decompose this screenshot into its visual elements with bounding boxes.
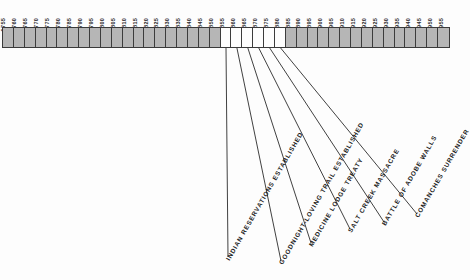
timeline-cell-1830	[166, 28, 177, 47]
timeline-cell-1795	[90, 28, 101, 47]
timeline-cell-1755	[3, 28, 14, 47]
timeline-cell-1800	[101, 28, 112, 47]
year-tick-1935: 1935	[396, 1, 406, 27]
year-tick-1945: 1945	[418, 1, 428, 27]
timeline-cell-1875	[264, 28, 275, 47]
timeline-cell-1890	[297, 28, 308, 47]
timeline-cell-1785	[68, 28, 79, 47]
timeline-cell-1930	[384, 28, 395, 47]
timeline-cell-1885	[286, 28, 297, 47]
year-tick-1955: 1955	[440, 1, 450, 27]
year-tick-1950: 1950	[429, 1, 439, 27]
timeline-cell-1920	[362, 28, 373, 47]
year-tick-1875: 1875	[265, 1, 275, 27]
year-tick-1940: 1940	[407, 1, 417, 27]
year-tick-1805: 1805	[112, 1, 122, 27]
timeline-cell-1820	[144, 28, 155, 47]
timeline-cell-1845	[199, 28, 210, 47]
timeline-cell-1810	[123, 28, 134, 47]
year-tick-1810: 1810	[123, 1, 133, 27]
timeline-cell-1860	[231, 28, 242, 47]
event-label-1875: BATTLE OF ADOBE WALLS	[381, 134, 438, 226]
leader-line-1855	[226, 48, 228, 257]
timeline-cell-1780	[57, 28, 68, 47]
timeline-cell-1900	[318, 28, 329, 47]
event-label-1880: COMANCHES SURRENDER	[414, 128, 470, 219]
timeline-cell-1770	[36, 28, 47, 47]
timeline-cell-1775	[47, 28, 58, 47]
timeline-cell-1840	[188, 28, 199, 47]
timeline-cell-1815	[134, 28, 145, 47]
leader-line-1880	[281, 48, 417, 214]
timeline-cell-1835	[177, 28, 188, 47]
timeline-cell-1765	[25, 28, 36, 47]
year-tick-1800: 1800	[101, 1, 111, 27]
year-tick-1880: 1880	[276, 1, 286, 27]
year-tick-1815: 1815	[134, 1, 144, 27]
year-tick-1795: 1795	[90, 1, 100, 27]
timeline-cell-1870	[253, 28, 264, 47]
timeline-cell-1855	[221, 28, 232, 47]
year-tick-1870: 1870	[254, 1, 264, 27]
timeline-cell-1910	[340, 28, 351, 47]
timeline-cell-1825	[155, 28, 166, 47]
timeline-cell-1805	[112, 28, 123, 47]
timeline-cell-1850	[210, 28, 221, 47]
timeline-cell-1925	[373, 28, 384, 47]
timeline-cell-1915	[351, 28, 362, 47]
timeline-cell-1880	[275, 28, 286, 47]
timeline-cell-1935	[395, 28, 406, 47]
timeline-cell-1940	[405, 28, 416, 47]
timeline-bar	[2, 27, 450, 48]
year-tick-1865: 1865	[243, 1, 253, 27]
timeline-cell-1950	[427, 28, 438, 47]
year-tick-1930: 1930	[385, 1, 395, 27]
timeline-cell-1955	[438, 28, 449, 47]
timeline-cell-1790	[79, 28, 90, 47]
timeline-cell-1905	[329, 28, 340, 47]
timeline-cell-1760	[14, 28, 25, 47]
timeline-cell-1895	[308, 28, 319, 47]
timeline-cell-1865	[242, 28, 253, 47]
timeline-cell-1945	[416, 28, 427, 47]
